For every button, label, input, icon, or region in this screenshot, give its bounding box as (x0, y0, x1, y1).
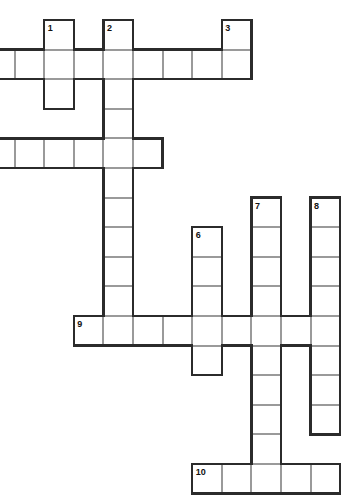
crossword-cell[interactable] (74, 138, 104, 168)
grid-edge-right (339, 226, 342, 258)
crossword-cell[interactable] (251, 405, 281, 435)
grid-edge-top (43, 19, 75, 22)
cell-number-8: 8 (314, 202, 319, 211)
grid-edge-bottom (309, 433, 341, 436)
crossword-cell[interactable] (222, 316, 252, 346)
grid-edge-top (73, 315, 105, 318)
crossword-cell[interactable] (103, 50, 133, 80)
crossword-cell[interactable] (222, 50, 252, 80)
grid-edge-right (339, 256, 342, 288)
grid-edge-bottom (73, 167, 105, 170)
grid-edge-right (339, 374, 342, 406)
grid-edge-right (280, 226, 283, 258)
grid-edge-left (250, 404, 253, 436)
cell-number-9: 9 (77, 320, 82, 329)
crossword-cell[interactable] (251, 286, 281, 316)
grid-edge-right (280, 285, 283, 317)
crossword-cell[interactable] (251, 316, 281, 346)
grid-edge-right (132, 256, 135, 288)
grid-edge-top (43, 137, 75, 140)
crossword-cell[interactable] (281, 464, 311, 494)
crossword-cell[interactable] (311, 346, 341, 376)
crossword-cell[interactable] (103, 286, 133, 316)
grid-edge-left (102, 19, 105, 51)
grid-edge-right (132, 78, 135, 110)
grid-edge-top (73, 48, 105, 51)
crossword-cell[interactable] (103, 198, 133, 228)
grid-edge-left (250, 285, 253, 317)
grid-edge-top (309, 463, 341, 466)
crossword-cell[interactable] (251, 464, 281, 494)
crossword-cell[interactable] (192, 286, 222, 316)
grid-edge-right (339, 404, 342, 436)
crossword-cell[interactable] (133, 50, 163, 80)
crossword-cell[interactable] (44, 79, 74, 109)
crossword-cell[interactable] (192, 346, 222, 376)
crossword-cell[interactable] (133, 138, 163, 168)
crossword-cell[interactable] (15, 138, 45, 168)
grid-edge-top (161, 48, 193, 51)
grid-edge-left (102, 196, 105, 228)
grid-edge-left (250, 374, 253, 406)
crossword-cell[interactable] (103, 109, 133, 139)
grid-edge-left (73, 315, 76, 347)
grid-edge-bottom (191, 78, 223, 81)
crossword-cell[interactable] (103, 257, 133, 287)
crossword-cell[interactable] (251, 346, 281, 376)
crossword-cell[interactable] (311, 316, 341, 346)
crossword-cell[interactable] (133, 316, 163, 346)
crossword-cell[interactable] (103, 316, 133, 346)
crossword-cell[interactable] (311, 375, 341, 405)
grid-edge-top (250, 196, 282, 199)
grid-edge-left (309, 285, 312, 317)
cell-number-3: 3 (225, 24, 230, 33)
grid-edge-left (191, 463, 194, 495)
grid-edge-right (221, 344, 224, 376)
grid-edge-left (309, 256, 312, 288)
crossword-cell[interactable] (311, 286, 341, 316)
grid-edge-left (309, 344, 312, 376)
crossword-cell[interactable] (0, 50, 15, 80)
grid-edge-bottom (102, 344, 134, 347)
grid-edge-top (161, 315, 193, 318)
crossword-cell[interactable] (251, 434, 281, 464)
grid-edge-left (221, 19, 224, 51)
grid-edge-right (280, 256, 283, 288)
crossword-cell[interactable] (163, 50, 193, 80)
crossword-cell[interactable] (192, 257, 222, 287)
grid-edge-top (132, 137, 164, 140)
crossword-cell[interactable] (311, 464, 341, 494)
crossword-cell[interactable] (251, 375, 281, 405)
crossword-cell[interactable] (74, 50, 104, 80)
crossword-cell[interactable] (251, 257, 281, 287)
crossword-cell[interactable] (103, 138, 133, 168)
crossword-cell[interactable] (281, 316, 311, 346)
grid-edge-right (280, 374, 283, 406)
crossword-cell[interactable] (103, 79, 133, 109)
grid-edge-left (102, 256, 105, 288)
grid-edge-right (221, 226, 224, 258)
grid-edge-right (280, 344, 283, 376)
crossword-cell[interactable] (103, 168, 133, 198)
grid-edge-right (132, 167, 135, 199)
crossword-cell[interactable] (163, 316, 193, 346)
crossword-cell[interactable] (311, 405, 341, 435)
grid-edge-top (13, 137, 45, 140)
crossword-cell[interactable] (192, 316, 222, 346)
crossword-cell[interactable] (311, 257, 341, 287)
grid-edge-left (43, 78, 46, 110)
crossword-cell[interactable] (251, 227, 281, 257)
grid-edge-right (73, 19, 76, 51)
grid-edge-left (250, 344, 253, 376)
grid-edge-left (43, 19, 46, 51)
crossword-cell[interactable] (44, 50, 74, 80)
crossword-cell[interactable] (0, 138, 15, 168)
crossword-cell[interactable] (192, 50, 222, 80)
crossword-cell[interactable] (103, 227, 133, 257)
grid-edge-right (73, 78, 76, 110)
crossword-cell[interactable] (44, 138, 74, 168)
crossword-cell[interactable] (222, 464, 252, 494)
crossword-cell[interactable] (311, 227, 341, 257)
crossword-cell[interactable] (15, 50, 45, 80)
